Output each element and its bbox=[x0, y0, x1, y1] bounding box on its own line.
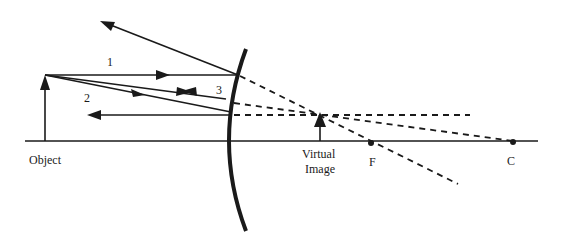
virtual-image-label-line1: Virtual bbox=[302, 147, 336, 161]
ray-3-extension bbox=[234, 103, 513, 141]
center-of-curvature-dot bbox=[510, 139, 516, 145]
ray-diagram: 1 2 3 Object Virtual Image F C bbox=[0, 0, 565, 241]
object-arrow bbox=[40, 75, 50, 141]
focal-point-dot bbox=[368, 140, 374, 146]
ray-2 bbox=[45, 75, 231, 120]
ray-1-extension bbox=[240, 76, 458, 184]
ray-1-label: 1 bbox=[107, 55, 113, 69]
ray-3-label: 3 bbox=[216, 83, 222, 97]
convex-mirror bbox=[229, 49, 246, 231]
ray-1 bbox=[45, 21, 238, 80]
ray-2-label: 2 bbox=[84, 91, 90, 105]
focal-point-label: F bbox=[369, 155, 376, 169]
object-label: Object bbox=[29, 153, 62, 167]
virtual-image-label-line2: Image bbox=[305, 162, 335, 176]
center-of-curvature-label: C bbox=[507, 154, 515, 168]
virtual-image-arrow bbox=[314, 112, 326, 141]
